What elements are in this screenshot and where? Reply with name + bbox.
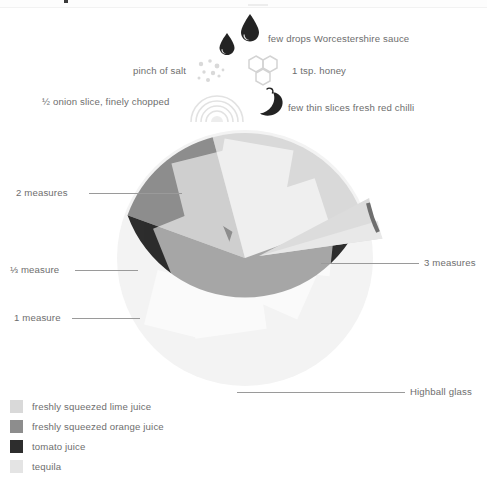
infographic-canvas: few drops Worcestershire sauce pinch of … (0, 0, 487, 487)
callout-lime-measure: 2 measures (16, 187, 68, 199)
legend-item-orange[interactable]: freshly squeezed orange juice (10, 416, 240, 436)
legend-item-lime[interactable]: freshly squeezed lime juice (10, 396, 240, 416)
legend-item-tequila[interactable]: tequila (10, 456, 240, 476)
leader-line-lime (89, 193, 182, 194)
legend-item-tomato[interactable]: tomato juice (10, 436, 240, 456)
callout-orange-measure: ⅓ measure (10, 264, 59, 276)
leader-line-tequila (72, 318, 140, 319)
callout-tomato-measure: 3 measures (424, 257, 476, 269)
callout-glassware: Highball glass (410, 386, 472, 398)
legend-label-orange: freshly squeezed orange juice (32, 421, 164, 432)
leader-line-tomato (321, 263, 419, 264)
legend-swatch-tomato (10, 440, 23, 453)
legend-swatch-lime (10, 400, 23, 413)
leader-line-glassware (237, 392, 405, 393)
legend-label-lime: freshly squeezed lime juice (32, 401, 151, 412)
legend-swatch-tequila (10, 460, 23, 473)
legend-label-tomato: tomato juice (32, 441, 86, 452)
legend-label-tequila: tequila (32, 461, 61, 472)
legend: freshly squeezed lime juice freshly sque… (10, 396, 240, 476)
legend-swatch-orange (10, 420, 23, 433)
callout-tequila-measure: 1 measure (14, 312, 61, 324)
leader-line-orange (75, 270, 138, 271)
